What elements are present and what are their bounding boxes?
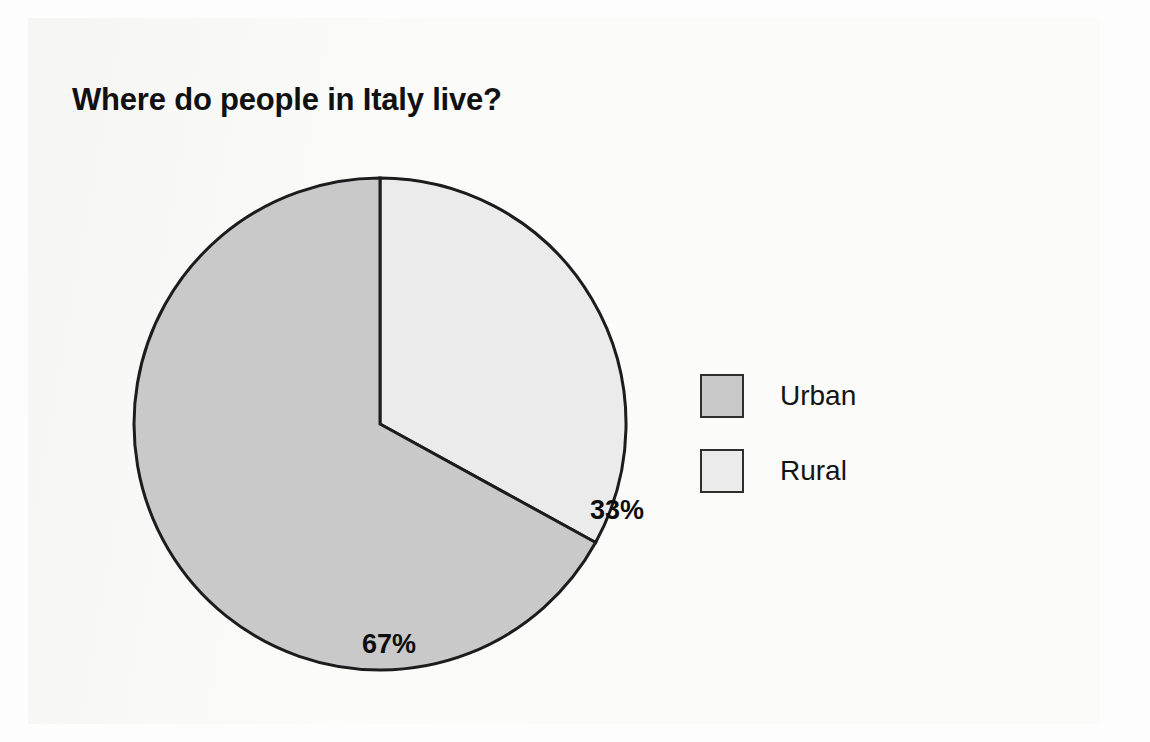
legend-swatch-rural	[700, 449, 744, 493]
pie-chart-svg	[131, 175, 629, 673]
chart-page: Where do people in Italy live? 33% 67% U…	[0, 0, 1150, 742]
legend-label-rural: Rural	[780, 455, 847, 487]
page-title: Where do people in Italy live?	[72, 82, 502, 118]
pie-label-urban: 67%	[362, 629, 416, 660]
legend-swatch-urban	[700, 374, 744, 418]
legend-item-urban[interactable]: Urban	[700, 372, 960, 420]
pie-label-rural: 33%	[590, 495, 644, 526]
chart-legend: Urban Rural	[700, 372, 960, 522]
pie-chart: 33% 67%	[131, 175, 629, 673]
legend-label-urban: Urban	[780, 380, 856, 412]
legend-item-rural[interactable]: Rural	[700, 447, 960, 495]
